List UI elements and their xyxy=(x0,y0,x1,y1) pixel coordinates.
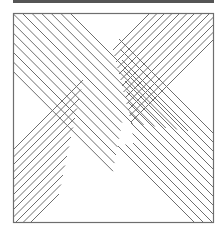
frame xyxy=(14,14,214,223)
woven-pattern xyxy=(0,0,223,235)
